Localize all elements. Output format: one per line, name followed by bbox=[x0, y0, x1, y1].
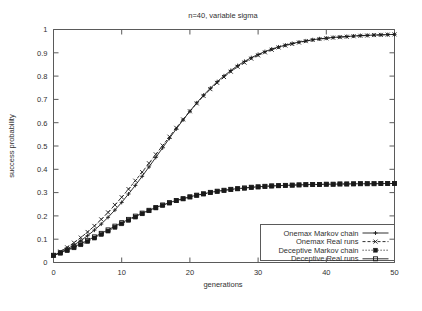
x-axis-title: generations bbox=[203, 280, 242, 289]
x-tick-label: 0 bbox=[51, 268, 55, 277]
y-tick-label: 0.6 bbox=[37, 119, 47, 128]
line-chart: n=40, variable sigma 00.10.20.30.40.50.6… bbox=[0, 0, 422, 311]
x-tick-label: 30 bbox=[254, 268, 262, 277]
chart-figure: n=40, variable sigma 00.10.20.30.40.50.6… bbox=[0, 0, 422, 311]
y-tick-label: 0.8 bbox=[37, 72, 47, 81]
x-tick-label: 10 bbox=[118, 268, 126, 277]
y-tick-label: 0.7 bbox=[37, 95, 47, 104]
x-tick-label: 20 bbox=[186, 268, 194, 277]
y-tick-label: 0.2 bbox=[37, 212, 47, 221]
x-tick-label: 50 bbox=[390, 268, 398, 277]
legend-label: Deceptive Real runs bbox=[291, 254, 359, 263]
x-tick-label: 40 bbox=[322, 268, 330, 277]
y-tick-label: 0.4 bbox=[37, 165, 47, 174]
marker-filled-square bbox=[374, 248, 378, 252]
y-tick-label: 0.1 bbox=[37, 235, 47, 244]
y-tick-label: 0.3 bbox=[37, 188, 47, 197]
y-tick-label: 0 bbox=[43, 258, 47, 267]
y-tick-label: 1 bbox=[43, 25, 47, 34]
chart-background bbox=[0, 0, 422, 311]
chart-title: n=40, variable sigma bbox=[188, 11, 258, 20]
y-axis-title: success probability bbox=[7, 114, 16, 178]
y-tick-label: 0.9 bbox=[37, 49, 47, 58]
y-tick-label: 0.5 bbox=[37, 142, 47, 151]
